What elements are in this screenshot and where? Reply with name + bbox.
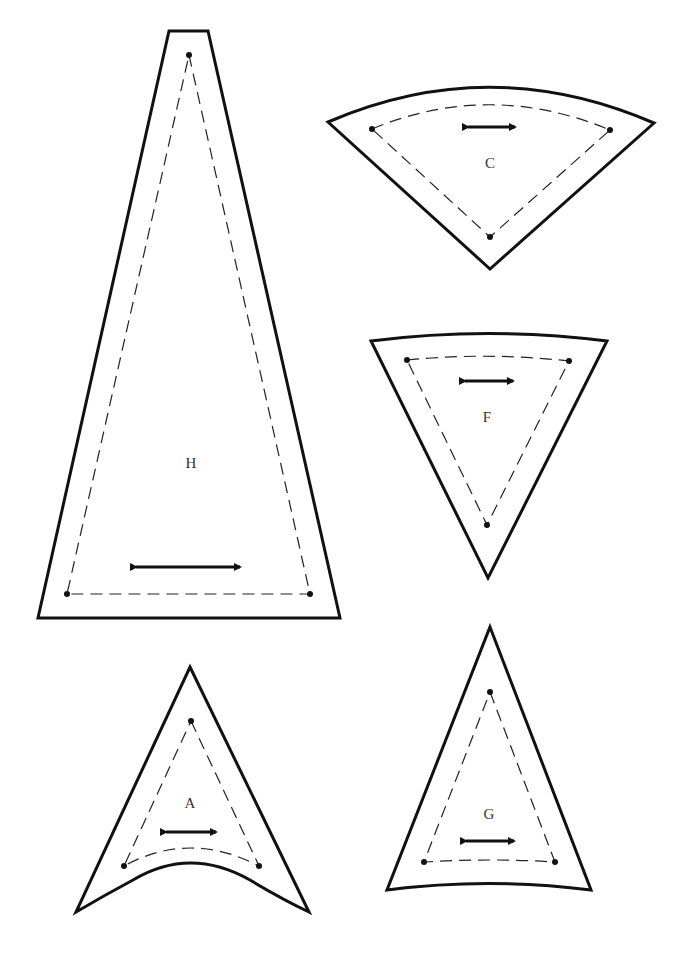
seam-dot bbox=[186, 52, 192, 58]
seam-dot bbox=[487, 234, 493, 240]
cut-line bbox=[328, 87, 654, 269]
pattern-sheet: H C F A bbox=[0, 0, 698, 978]
cut-line bbox=[387, 627, 591, 890]
cut-line bbox=[38, 31, 340, 618]
seam-dot bbox=[256, 863, 262, 869]
seam-dot bbox=[188, 718, 194, 724]
seam-dot bbox=[307, 591, 313, 597]
seam-dot bbox=[484, 522, 490, 528]
pattern-piece-f: F bbox=[371, 334, 607, 579]
piece-label: H bbox=[186, 455, 197, 471]
seam-dot bbox=[607, 127, 613, 133]
piece-label: F bbox=[483, 409, 491, 425]
piece-label: G bbox=[484, 806, 495, 822]
seam-dot bbox=[121, 863, 127, 869]
pattern-piece-g: G bbox=[387, 627, 591, 890]
seam-dot bbox=[421, 859, 427, 865]
piece-label: A bbox=[185, 795, 196, 811]
pattern-piece-c: C bbox=[328, 87, 654, 269]
pattern-piece-a: A bbox=[76, 667, 309, 912]
seam-dot bbox=[404, 357, 410, 363]
seam-dot bbox=[369, 126, 375, 132]
piece-label: C bbox=[485, 155, 495, 171]
cut-line bbox=[76, 667, 309, 912]
seam-dot bbox=[64, 591, 70, 597]
seam-dot bbox=[487, 689, 493, 695]
seam-dot bbox=[566, 358, 572, 364]
cut-line bbox=[371, 334, 607, 579]
seam-dot bbox=[552, 859, 558, 865]
pattern-piece-h: H bbox=[38, 31, 340, 618]
